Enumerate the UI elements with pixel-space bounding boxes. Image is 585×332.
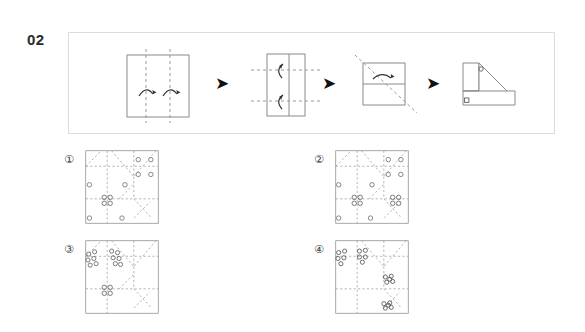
fold-step-1: [119, 49, 197, 123]
fold-step-2: [245, 45, 327, 125]
option-1-figure: [85, 150, 159, 224]
option-3-figure: [85, 240, 159, 314]
sequence-arrow-3: ➤: [426, 75, 440, 92]
option-2-figure: [335, 150, 409, 224]
option-4-label: ④: [314, 243, 324, 256]
fold-step-3: [349, 47, 429, 123]
page-title: 02: [27, 31, 45, 48]
option-2-label: ②: [314, 153, 324, 166]
sequence-arrow-1: ➤: [215, 75, 229, 92]
option-3-label: ③: [64, 243, 74, 256]
option-1-label: ①: [64, 153, 74, 166]
fold-sequence-panel: ➤ ➤ ➤: [68, 32, 555, 134]
option-4-figure: [335, 240, 409, 314]
answer-options: ①: [0, 145, 585, 332]
fold-step-4: [453, 47, 531, 123]
sequence-arrow-2: ➤: [322, 75, 336, 92]
